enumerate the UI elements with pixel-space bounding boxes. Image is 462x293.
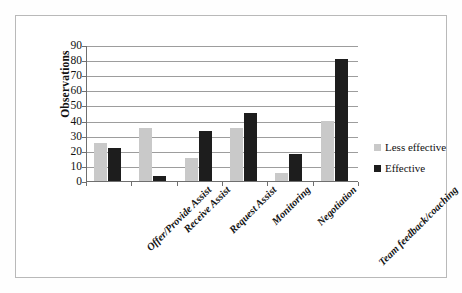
legend: Less effectiveEffective <box>374 141 460 183</box>
bar-effective[interactable] <box>199 131 212 181</box>
legend-swatch-icon <box>374 165 381 172</box>
bar-group <box>177 46 222 181</box>
legend-swatch-icon <box>374 144 381 151</box>
y-axis-tick-label: 20 <box>58 146 82 158</box>
bar-group <box>313 46 358 181</box>
bar-effective[interactable] <box>244 113 257 181</box>
bar-less-effective[interactable] <box>94 143 107 181</box>
x-axis-label: Request Assist <box>227 184 278 235</box>
y-axis-tick-label: 60 <box>58 85 82 97</box>
bar-group <box>222 46 267 181</box>
figure: Observations 9080706050403020100 Offer/P… <box>0 0 462 293</box>
bar-less-effective[interactable] <box>139 128 152 181</box>
bar-group <box>131 46 176 181</box>
y-axis-tick-label: 80 <box>58 55 82 67</box>
y-axis-tick-label: 0 <box>58 176 82 188</box>
legend-item[interactable]: Effective <box>374 162 460 174</box>
bar-less-effective[interactable] <box>321 121 334 181</box>
y-axis-tick-label: 30 <box>58 131 82 143</box>
x-axis-category-labels: Offer/Provide AssistReceive AssistReques… <box>86 184 416 284</box>
y-axis-tick-label: 40 <box>58 116 82 128</box>
plot-area <box>86 46 358 182</box>
y-axis-tick-label: 70 <box>58 70 82 82</box>
y-axis-tick-label: 10 <box>58 161 82 173</box>
y-axis-tick-label: 50 <box>58 100 82 112</box>
chart-frame: Observations 9080706050403020100 Offer/P… <box>15 15 447 278</box>
bar-group <box>86 46 131 181</box>
bar-less-effective[interactable] <box>185 158 198 181</box>
legend-label: Less effective <box>385 142 446 153</box>
bar-less-effective[interactable] <box>230 128 243 181</box>
bar-effective[interactable] <box>335 59 348 181</box>
y-axis-tick-labels: 9080706050403020100 <box>56 46 82 182</box>
bar-effective[interactable] <box>153 176 166 181</box>
bar-group <box>267 46 312 181</box>
bar-effective[interactable] <box>289 154 302 181</box>
x-axis-label: Negotiation <box>315 184 359 228</box>
legend-label: Effective <box>385 163 425 174</box>
bar-less-effective[interactable] <box>275 173 288 181</box>
y-axis-tick-label: 90 <box>58 40 82 52</box>
legend-item[interactable]: Less effective <box>374 141 460 153</box>
x-axis-label: Team feedback/coaching <box>377 184 461 268</box>
bar-effective[interactable] <box>108 148 121 181</box>
